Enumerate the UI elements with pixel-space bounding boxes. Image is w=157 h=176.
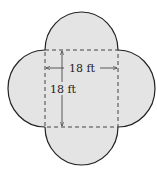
semicircle-right	[118, 50, 155, 127]
horizontal-side-label: 18 ft	[69, 62, 96, 75]
semicircle-left	[8, 50, 45, 127]
shape-fill	[8, 12, 155, 165]
quatrefoil-diagram: 18 ft 18 ft	[0, 0, 157, 176]
semicircle-top	[45, 12, 118, 50]
vertical-side-label: 18 ft	[50, 83, 77, 96]
semicircle-bottom	[45, 127, 118, 165]
